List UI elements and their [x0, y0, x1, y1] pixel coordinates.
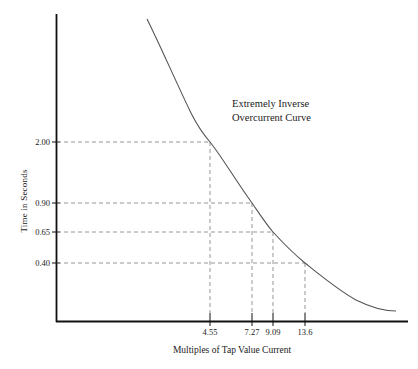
curve-annotation: Extremely Inverse Overcurrent Curve [232, 97, 372, 125]
y-tick-label-0-90: 0.90 [16, 198, 50, 208]
x-axis-title: Multiples of Tap Value Current [56, 345, 408, 355]
x-axis-ticks [210, 313, 305, 326]
y-tick-label-0-40: 0.40 [16, 258, 50, 268]
x-tick-label-4-55: 4.55 [190, 327, 230, 337]
curve-annotation-line-2: Overcurrent Curve [232, 111, 372, 125]
guide-lines-horizontal [57, 142, 305, 263]
y-tick-label-2-00: 2.00 [16, 137, 50, 147]
y-tick-label-0-65: 0.65 [16, 227, 50, 237]
curve-annotation-line-1: Extremely Inverse [232, 97, 372, 111]
chart-plot-area [0, 0, 418, 369]
x-tick-label-13-6: 13.6 [285, 327, 325, 337]
overcurrent-curve-chart: Time in Seconds 2.00 0.90 0.65 0.40 4.55… [0, 0, 418, 369]
guide-lines-vertical [210, 142, 305, 316]
overcurrent-curve-path [147, 19, 396, 311]
